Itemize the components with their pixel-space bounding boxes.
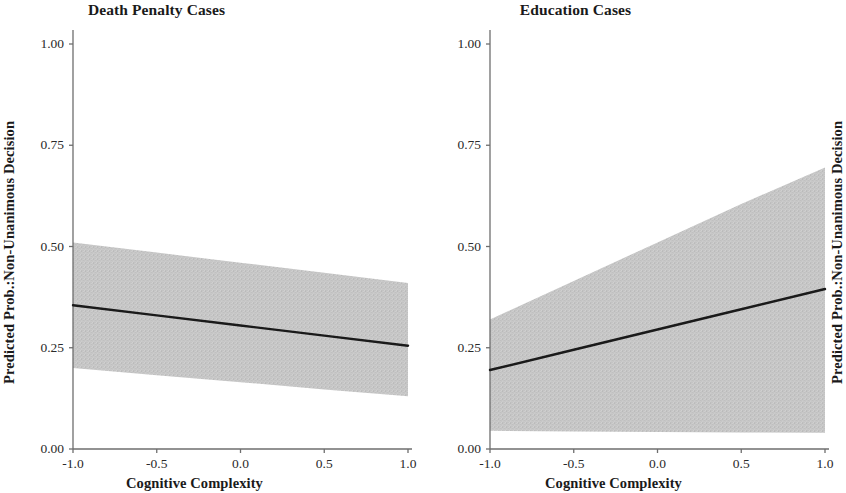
panel-education-cases: Education Cases Predicted Prob.:Non-Unan… [417,0,834,493]
x-axis-tick-label: 0.0 [232,456,249,472]
y-axis-tick-label: 0.25 [427,340,481,356]
x-axis-tick-label: 1.0 [400,456,417,472]
x-axis-tick-label: 0.5 [316,456,333,472]
y-axis-tick-label: 0.00 [10,441,64,457]
panel-death-penalty-cases: Death Penalty Cases Predicted Prob.:Non-… [0,0,417,493]
y-axis-tick-label: 0.75 [10,137,64,153]
y-axis-tick-label: 0.00 [427,441,481,457]
confidence-band [73,242,408,396]
y-axis-tick-label: 0.75 [427,137,481,153]
x-axis-tick-label: -1.0 [479,456,500,472]
x-axis-tick-label: 0.5 [733,456,750,472]
x-axis-tick-label: 0.0 [649,456,666,472]
y-axis-tick-label: 0.25 [10,340,64,356]
y-axis-tick-label: 0.50 [10,239,64,255]
x-axis-tick-label: -0.5 [563,456,584,472]
x-axis-tick-label: -0.5 [146,456,167,472]
y-axis-tick-label: 1.00 [10,36,64,52]
y-axis-tick-label: 1.00 [427,36,481,52]
y-axis-tick-label: 0.50 [427,239,481,255]
x-axis-tick-label: 1.0 [817,456,834,472]
x-axis-tick-label: -1.0 [62,456,83,472]
